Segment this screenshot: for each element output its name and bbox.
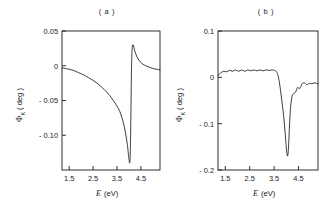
panel-a-x-axis-title: E (eV) bbox=[95, 189, 119, 198]
panel-a-xtick-2: 3.5 bbox=[112, 174, 122, 183]
panel-b-y-axis-title: Φ K ( deg ) bbox=[174, 88, 186, 122]
panel-a-xlabel-symbol: E bbox=[95, 189, 101, 198]
panel-b-xtick-3: 4.5 bbox=[293, 174, 303, 183]
panel-a-ytick-0: 0.05 bbox=[44, 27, 58, 36]
panel-b-axes-frame bbox=[218, 31, 318, 170]
panel-b-xtick-1: 2.5 bbox=[245, 174, 255, 183]
panel-a-xlabel-unit: (eV) bbox=[104, 189, 119, 198]
plot-panel-b: ( b ) 0.1 0 - 0.1 - 0.2 1.5 2.5 3.5 bbox=[165, 0, 335, 215]
panel-b-ytick-2: - 0.1 bbox=[199, 120, 214, 129]
panel-b-x-axis-title: E (eV) bbox=[252, 189, 276, 198]
panel-a-ylabel-subscript: K bbox=[20, 112, 26, 116]
panel-b-ylabel-subscript: K bbox=[180, 112, 186, 116]
panel-a-y-axis-title: Φ K ( deg ) bbox=[14, 88, 26, 122]
panel-a-ytick-3: - 0.10 bbox=[39, 131, 58, 140]
panel-a-chart: 0.05 0 - 0.05 - 0.10 1.5 2.5 3.5 4.5 E (… bbox=[0, 0, 170, 215]
panel-a-xtick-0: 1.5 bbox=[64, 174, 74, 183]
panel-b-ytick-1: 0 bbox=[210, 73, 214, 82]
figure-container: ( a ) 0.05 0 - 0.05 - 0.10 bbox=[0, 0, 335, 215]
panel-b-xlabel-unit: (eV) bbox=[261, 189, 276, 198]
plot-panel-a: ( a ) 0.05 0 - 0.05 - 0.10 bbox=[0, 0, 170, 215]
panel-b-x-ticks bbox=[225, 166, 298, 170]
panel-a-data-curve bbox=[62, 45, 160, 163]
panel-a-xtick-3: 4.5 bbox=[136, 174, 146, 183]
panel-a-ytick-2: - 0.05 bbox=[39, 96, 58, 105]
panel-a-ytick-1: 0 bbox=[54, 62, 58, 71]
panel-b-data-curve bbox=[218, 70, 318, 156]
panel-a-y-ticks bbox=[62, 31, 66, 135]
panel-b-xtick-0: 1.5 bbox=[220, 174, 230, 183]
panel-b-ytick-3: - 0.2 bbox=[199, 166, 214, 175]
panel-b-y-ticks bbox=[218, 31, 222, 170]
panel-b-xlabel-symbol: E bbox=[252, 189, 258, 198]
panel-a-ylabel-unit: ( deg ) bbox=[15, 88, 24, 110]
panel-b-ytick-0: 0.1 bbox=[204, 27, 214, 36]
panel-a-axes-frame bbox=[62, 31, 160, 170]
panel-b-ylabel-unit: ( deg ) bbox=[175, 88, 184, 110]
panel-a-xtick-1: 2.5 bbox=[88, 174, 98, 183]
panel-b-xtick-2: 3.5 bbox=[269, 174, 279, 183]
panel-a-x-ticks bbox=[69, 166, 141, 170]
panel-b-chart: 0.1 0 - 0.1 - 0.2 1.5 2.5 3.5 4.5 E (eV)… bbox=[165, 0, 335, 215]
